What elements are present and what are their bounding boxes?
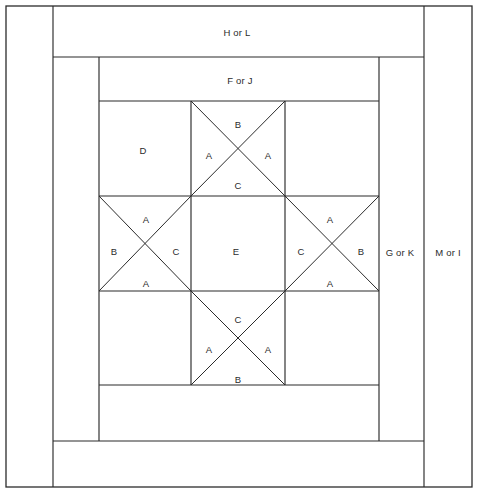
patch-label-e: E (233, 246, 240, 257)
patch-label-middle-right-c: C (297, 246, 304, 257)
band-label-f-or-j: F or J (227, 75, 252, 86)
band-label-g-or-k: G or K (386, 247, 415, 258)
patch-label-top-center-c: C (234, 180, 241, 191)
patch-label-d: D (139, 145, 146, 156)
band-label-h-or-l: H or L (223, 27, 250, 38)
patch-label-middle-left-b: B (111, 246, 118, 257)
band-label-m-or-i: M or I (435, 247, 460, 258)
patch-label-middle-right-b: B (358, 246, 365, 257)
patch-label-top-center-a-right: A (265, 150, 272, 161)
patch-label-middle-right-a-top: A (327, 214, 334, 225)
patch-label-bottom-center-b: B (235, 374, 242, 385)
patch-label-bottom-center-a-right: A (265, 344, 272, 355)
patch-label-middle-left-a-bottom: A (143, 278, 150, 289)
quilt-block-diagram: H or L F or J G or K M or I D B A A C A … (0, 0, 481, 498)
patch-label-top-center-a-left: A (206, 150, 213, 161)
patch-label-bottom-center-c: C (234, 314, 241, 325)
qst-bottom-center-diagonals (191, 291, 285, 385)
patch-label-middle-left-c: C (172, 246, 179, 257)
patch-label-top-center-b: B (235, 119, 242, 130)
patch-label-middle-right-a-bottom: A (327, 278, 334, 289)
patch-label-middle-left-a-top: A (143, 214, 150, 225)
patch-label-bottom-center-a-left: A (206, 344, 213, 355)
